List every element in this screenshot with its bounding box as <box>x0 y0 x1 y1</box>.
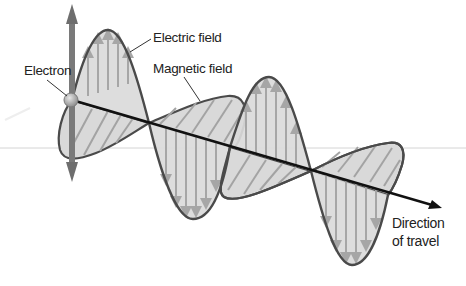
direction-label-line2: of travel <box>392 232 445 250</box>
magnetic-field-leader-line <box>184 77 200 101</box>
electric-field-label: Electric field <box>153 30 222 46</box>
direction-label-line1: Direction <box>392 214 445 232</box>
electric-field-leader-line <box>130 39 151 52</box>
magnetic-field-label: Magnetic field <box>153 61 232 77</box>
background-smudge <box>5 108 30 120</box>
electron-label: Electron <box>24 63 71 79</box>
em-wave-diagram: Electron Electric field Magnetic field D… <box>0 0 466 286</box>
direction-of-travel-label: Direction of travel <box>392 214 445 250</box>
electron-leader-line <box>47 80 67 96</box>
